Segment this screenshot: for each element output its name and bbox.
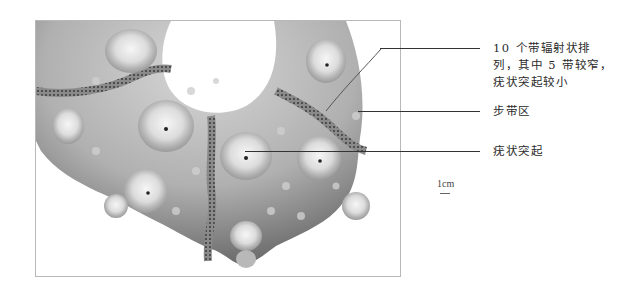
leader-line-ambulacral-zone [358, 111, 480, 112]
specimen-photo-frame [35, 20, 401, 277]
annotation-line: 疣状突起 [493, 143, 543, 160]
leader-line-radial-bands [380, 48, 480, 49]
scale-label: 1cm [437, 178, 454, 189]
annotation-tubercle: 疣状突起 [493, 143, 543, 160]
annotation-radial-bands: 10 个带辐射状排 列，其中 5 带较窄， 疣状突起较小 [493, 40, 612, 91]
annotation-line: 疣状突起较小 [493, 74, 612, 91]
annotation-line: 列，其中 5 带较窄， [493, 57, 612, 74]
annotation-line: 步带区 [493, 103, 531, 120]
sea-urchin-specimen-image [36, 21, 401, 277]
annotation-ambulacral-zone: 步带区 [493, 103, 531, 120]
scale-bar [440, 193, 450, 194]
annotation-line: 10 个带辐射状排 [493, 40, 612, 57]
leader-line-tubercle [245, 151, 480, 152]
